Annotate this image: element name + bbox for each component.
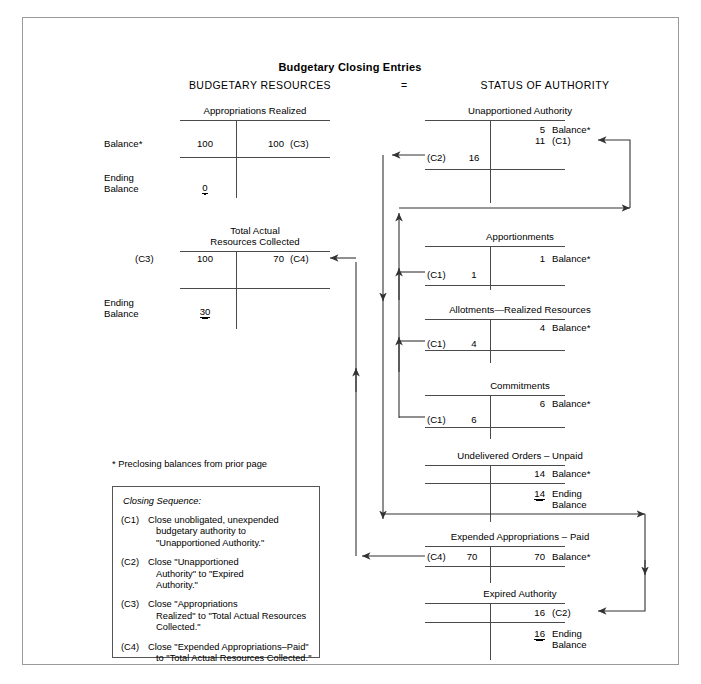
connector-arrows-layer (0, 0, 701, 684)
c1-into-unapportioned (598, 140, 630, 208)
c2-into-expired-authority (598, 514, 645, 611)
